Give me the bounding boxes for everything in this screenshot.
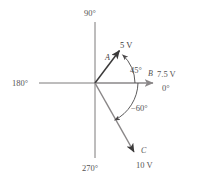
vector-a-magnitude: 5 V [120,41,132,50]
axis-label-270: 270° [82,164,98,173]
vector-b-magnitude: 7.5 V [157,70,176,79]
vector-a-label: A [105,54,110,62]
angle-label-minus-60: −60° [131,104,148,113]
phasor-diagram-figure: 90° 270° 180° 0° A 5 V B 7.5 V C 10 V 45… [0,0,197,187]
vector-b-label: B [148,70,153,78]
phasor-diagram-canvas [0,0,197,187]
vector-c-line [95,83,134,152]
angle-label-45: 45° [130,66,142,75]
vector-c-label: C [141,147,146,155]
axis-label-0: 0° [162,84,170,93]
axis-label-180: 180° [12,79,28,88]
axis-label-90: 90° [84,9,96,18]
angle-arc-minus-60 [115,83,139,120]
vector-c-magnitude: 10 V [136,161,153,170]
